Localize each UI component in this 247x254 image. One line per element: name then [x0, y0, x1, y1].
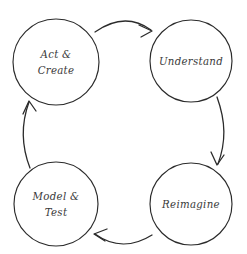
node-understand[interactable]: Understand	[150, 20, 232, 102]
node-model-test[interactable]: Model & Test	[14, 162, 98, 246]
node-label-model-test-line1: Model &	[32, 191, 80, 202]
cycle-diagram: Act & Create Understand Reimagine Model …	[0, 0, 247, 254]
node-label-act-create-line1: Act &	[40, 49, 72, 60]
arrowhead-left-icon	[94, 229, 107, 241]
arrowhead-up-icon	[23, 101, 36, 114]
edge-path-bottom	[95, 234, 152, 244]
node-act-create[interactable]: Act & Create	[13, 19, 99, 105]
node-reimagine[interactable]: Reimagine	[150, 163, 232, 245]
node-label-reimagine: Reimagine	[161, 199, 220, 210]
node-label-act-create-line2: Create	[38, 65, 75, 76]
edge-path-right	[217, 97, 224, 164]
edge-act-create-to-understand	[95, 21, 152, 37]
arrowhead-down-icon	[211, 152, 224, 165]
edge-reimagine-to-model-test	[94, 229, 152, 244]
edge-understand-to-reimagine	[211, 97, 224, 165]
edge-model-test-to-act-create	[23, 101, 36, 168]
node-circle-act-create[interactable]	[13, 19, 99, 105]
node-label-understand: Understand	[159, 56, 223, 67]
cycle-diagram-canvas: Act & Create Understand Reimagine Model …	[0, 0, 247, 254]
node-label-model-test-line2: Test	[45, 207, 68, 218]
node-circle-model-test[interactable]	[14, 162, 98, 246]
